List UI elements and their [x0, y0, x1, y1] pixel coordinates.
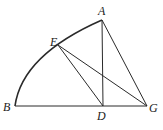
segment-AG [102, 20, 147, 106]
segment-ED [58, 45, 103, 106]
label-G: G [149, 101, 158, 115]
geometry-diagram: A E B D G [0, 0, 163, 130]
label-D: D [96, 109, 106, 123]
segment-AD [102, 20, 103, 106]
arc-BA [15, 20, 102, 106]
label-E: E [49, 35, 58, 49]
label-B: B [3, 100, 11, 114]
label-A: A [97, 4, 106, 18]
